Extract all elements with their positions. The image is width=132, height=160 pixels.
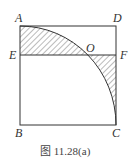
label-d: D [112, 11, 122, 25]
hatched-region-aeo [20, 26, 89, 55]
label-o: O [86, 41, 95, 55]
hatched-region-ofc [89, 55, 116, 125]
label-a: A [14, 11, 23, 25]
label-f: F [119, 48, 128, 62]
label-c: C [112, 126, 121, 140]
label-e: E [8, 48, 17, 62]
label-b: B [15, 126, 23, 140]
geometry-figure: A D E F O B C 图 11.28(a) [0, 0, 132, 160]
figure-caption: 图 11.28(a) [40, 145, 91, 158]
